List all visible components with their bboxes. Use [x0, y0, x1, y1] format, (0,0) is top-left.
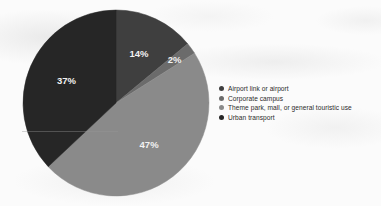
legend-item-theme-park-mall-or-general-touristic-use[interactable]: Theme park, mall, or general touristic u… — [219, 103, 377, 113]
legend-item-label: Urban transport — [228, 113, 275, 123]
legend-item-corporate-campus[interactable]: Corporate campus — [219, 94, 377, 104]
pie-slice-label: 2% — [168, 54, 182, 65]
legend-marker-icon — [219, 105, 224, 110]
pie-slice-group — [23, 10, 209, 196]
legend-item-label: Airport link or airport — [228, 84, 289, 94]
pie-slice-label: 47% — [140, 139, 160, 150]
legend-item-urban-transport[interactable]: Urban transport — [219, 113, 377, 123]
chart-legend: Airport link or airport Corporate campus… — [219, 84, 377, 122]
legend-item-airport-link-or-airport[interactable]: Airport link or airport — [219, 84, 377, 94]
pie-slice-label: 37% — [57, 75, 77, 86]
pie-chart: 14%2%47%37% — [22, 9, 210, 197]
pie-slice-label: 14% — [129, 48, 149, 59]
legend-item-label: Corporate campus — [228, 94, 283, 104]
legend-marker-icon — [219, 96, 224, 101]
legend-marker-icon — [219, 115, 224, 120]
legend-marker-icon — [219, 86, 224, 91]
legend-item-label: Theme park, mall, or general touristic u… — [228, 103, 352, 113]
pie-chart-svg: 14%2%47%37% — [22, 9, 210, 197]
